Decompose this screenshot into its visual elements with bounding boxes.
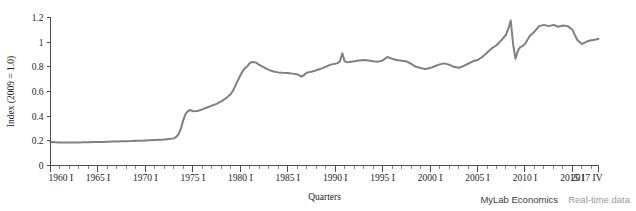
y-axis-tick-label: 0 (39, 161, 44, 171)
x-axis-tick-label: 1975 I (181, 173, 206, 183)
x-axis-tick-label: 1980 I (228, 173, 253, 183)
y-axis-title: Index (2009 = 1.0) (6, 56, 17, 127)
x-axis-tick-label: 1990 I (323, 173, 348, 183)
y-axis-tick-label: 1.2 (32, 13, 44, 23)
x-axis-major-ticks (51, 166, 599, 172)
x-axis-tick-label: 1995 I (370, 173, 395, 183)
x-axis-tick-label: 2000 I (418, 173, 443, 183)
price-index-line (51, 21, 599, 143)
y-axis-tick-labels: 00.20.40.60.811.2 (32, 13, 44, 171)
y-axis: 00.20.40.60.811.2 Index (2009 = 1.0) (6, 13, 51, 171)
y-axis-tick-label: 0.4 (32, 112, 44, 122)
figure-container: 00.20.40.60.811.2 Index (2009 = 1.0) 196… (0, 0, 636, 211)
y-axis-tick-label: 0.8 (32, 62, 44, 72)
x-axis-tick-label: 1960 I (49, 173, 74, 183)
line-chart: 00.20.40.60.811.2 Index (2009 = 1.0) 196… (0, 0, 636, 211)
plot-area (51, 21, 599, 143)
y-axis-tick-label: 0.2 (32, 136, 44, 146)
x-axis-title: Quarters (308, 192, 341, 202)
y-axis-tick-label: 0.6 (32, 87, 44, 97)
x-axis-tick-label: 1985 I (275, 173, 300, 183)
x-axis-tick-label: 2005 I (465, 173, 490, 183)
x-axis-tick-label: 2010 I (513, 173, 538, 183)
x-axis-tick-label: 1970 I (133, 173, 158, 183)
x-axis-tick-label: 1965 I (86, 173, 111, 183)
x-axis-tick-labels: 1960 I1965 I1970 I1975 I1980 I1985 I1990… (49, 173, 603, 183)
x-axis-tick-label: 2017 IV (571, 173, 603, 183)
real-time-data-credit: Real-time data (568, 194, 630, 205)
mylab-economics-credit: MyLab Economics (480, 194, 558, 205)
y-axis-tick-label: 1 (39, 38, 44, 48)
y-axis-ticks (47, 18, 51, 166)
